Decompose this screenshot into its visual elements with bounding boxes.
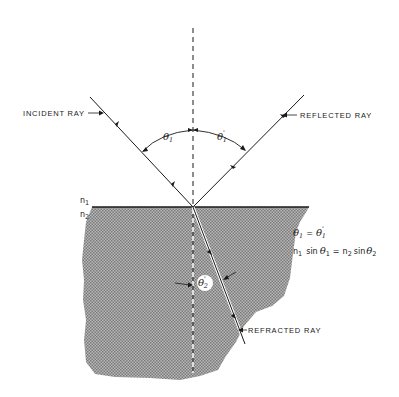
refraction-diagram: INCIDENT RAY REFLECTED RAY REFRACTED RAY… (0, 0, 399, 397)
medium-n2-region (82, 207, 309, 380)
n2-label: n2 (80, 210, 89, 221)
n1-label: n1 (80, 196, 89, 207)
theta1-prime-label: θ'1 (217, 129, 227, 144)
reflected-ray-label: REFLECTED RAY (300, 111, 372, 120)
equation-reflection: θ1=θ'1 (293, 225, 326, 240)
incident-arrow-icon-2 (171, 181, 175, 187)
theta1-arc-arrow-icon (142, 147, 148, 152)
incident-ray-label: INCIDENT RAY (23, 109, 85, 118)
incident-arrow-icon (115, 121, 119, 127)
refracted-ray-label: REFRACTED RAY (248, 326, 321, 335)
incident-ray (90, 97, 193, 207)
theta1-prime-arc-arrow-icon (193, 128, 198, 132)
theta1-label: θ1 (163, 131, 173, 144)
theta1-prime-arc-arrow-icon-2 (240, 145, 246, 151)
equation-snell: n1sinθ1=n2sinθ2 (293, 245, 376, 258)
theta1-arc-arrow-icon-2 (188, 128, 193, 132)
reflected-ray (193, 95, 304, 207)
